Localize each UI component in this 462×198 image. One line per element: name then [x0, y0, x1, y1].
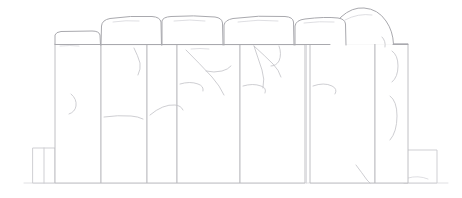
columns-group: [55, 44, 408, 183]
column-4: [177, 45, 240, 183]
column-6: [310, 44, 375, 183]
artwork-canvas: [0, 0, 462, 198]
column-1: [55, 44, 101, 183]
capstone-1: [55, 31, 101, 45]
stone-wall-drawing: [0, 0, 462, 198]
column-7: [375, 44, 408, 183]
